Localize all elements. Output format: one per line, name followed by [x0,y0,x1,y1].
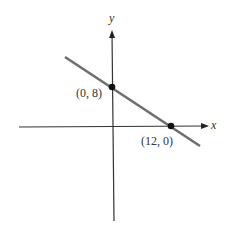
x-intercept-label: (12, 0) [141,134,173,148]
graph-line [65,57,200,146]
y-axis-label: y [108,11,115,25]
coordinate-graph: y x (0, 8) (12, 0) [0,0,229,236]
x-axis-label: x [210,118,217,132]
point-y-intercept [109,84,116,91]
point-x-intercept [168,123,175,130]
y-intercept-label: (0, 8) [76,86,102,100]
